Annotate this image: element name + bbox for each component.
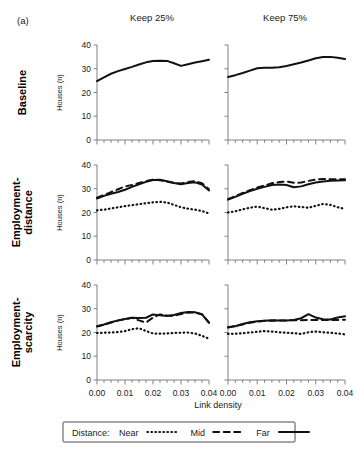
legend-label-near: Near xyxy=(119,428,139,438)
y-tick-label: 40 xyxy=(82,40,92,50)
y-tick-label: 10 xyxy=(82,231,92,241)
x-tick-label: 0.00 xyxy=(220,388,237,398)
y-axis-label-row-1: Houses (n) xyxy=(55,74,64,111)
y-tick-label: 40 xyxy=(82,280,92,290)
row-title-employment-distance: Employment- xyxy=(10,177,22,247)
x-tick-label: 0.00 xyxy=(89,388,106,398)
row-title-employment-distance: distance xyxy=(22,190,34,235)
legend-prefix-label: Distance: xyxy=(72,428,110,438)
figure-background xyxy=(0,0,359,451)
y-tick-label: 10 xyxy=(82,351,92,361)
x-axis-title: Link density xyxy=(194,400,242,410)
y-tick-label: 40 xyxy=(82,160,92,170)
y-tick-label: 20 xyxy=(82,88,92,98)
x-tick-label: 0.02 xyxy=(145,388,162,398)
y-tick-label: 30 xyxy=(82,184,92,194)
row-title-employment-scarcity: scarcity xyxy=(22,311,34,353)
y-tick-label: 0 xyxy=(86,375,91,385)
column-title-keep25: Keep 25% xyxy=(130,12,174,23)
legend-label-mid: Mid xyxy=(190,428,205,438)
y-tick-label: 20 xyxy=(82,208,92,218)
legend-label-far: Far xyxy=(256,428,270,438)
x-tick-label: 0.03 xyxy=(173,388,190,398)
x-tick-label: 0.01 xyxy=(117,388,134,398)
y-axis-label-row-2: Houses (n) xyxy=(55,194,64,231)
panel-letter-label: (a) xyxy=(17,15,29,26)
row-title-employment-scarcity: Employment- xyxy=(10,297,22,367)
y-tick-label: 30 xyxy=(82,304,92,314)
y-tick-label: 30 xyxy=(82,64,92,74)
y-tick-label: 0 xyxy=(86,255,91,265)
y-tick-label: 10 xyxy=(82,111,92,121)
y-tick-label: 20 xyxy=(82,328,92,338)
x-tick-label: 0.02 xyxy=(278,388,295,398)
figure-panel-a: (a) Keep 25% Keep 75% BaselineEmployment… xyxy=(0,0,359,451)
x-tick-label: 0.03 xyxy=(307,388,324,398)
x-tick-label: 0.01 xyxy=(249,388,266,398)
y-tick-label: 0 xyxy=(86,135,91,145)
x-tick-label: 0.04 xyxy=(337,388,354,398)
row-title-baseline: Baseline xyxy=(16,70,28,115)
column-title-keep75: Keep 75% xyxy=(263,12,307,23)
y-axis-label-row-3: Houses (n) xyxy=(55,314,64,351)
x-tick-label: 0.04 xyxy=(201,388,218,398)
